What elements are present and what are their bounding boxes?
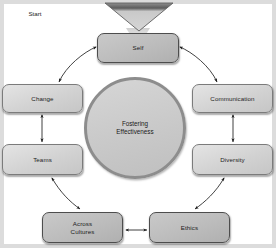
node-teams-label: Teams (31, 156, 54, 164)
center-circle: Fostering Effectiveness (84, 77, 186, 179)
node-self-label: Self (130, 44, 145, 52)
node-teams[interactable]: Teams (2, 144, 83, 175)
node-across-cultures-label: Across Cultures (69, 220, 97, 235)
node-communication[interactable]: Communication (192, 84, 273, 113)
diagram-canvas: Start Fostering Effectiveness Self Commu… (0, 0, 276, 248)
node-change[interactable]: Change (2, 84, 83, 113)
node-across-cultures[interactable]: Across Cultures (42, 212, 123, 243)
node-communication-label: Communication (208, 95, 256, 103)
center-circle-label: Fostering Effectiveness (116, 120, 153, 136)
node-ethics-label: Ethics (179, 224, 200, 232)
node-ethics[interactable]: Ethics (149, 212, 230, 243)
node-change-label: Change (29, 95, 55, 103)
node-diversity-label: Diversity (218, 156, 247, 164)
node-self[interactable]: Self (97, 33, 179, 63)
node-diversity[interactable]: Diversity (192, 144, 273, 175)
start-label: Start (0, 10, 70, 17)
